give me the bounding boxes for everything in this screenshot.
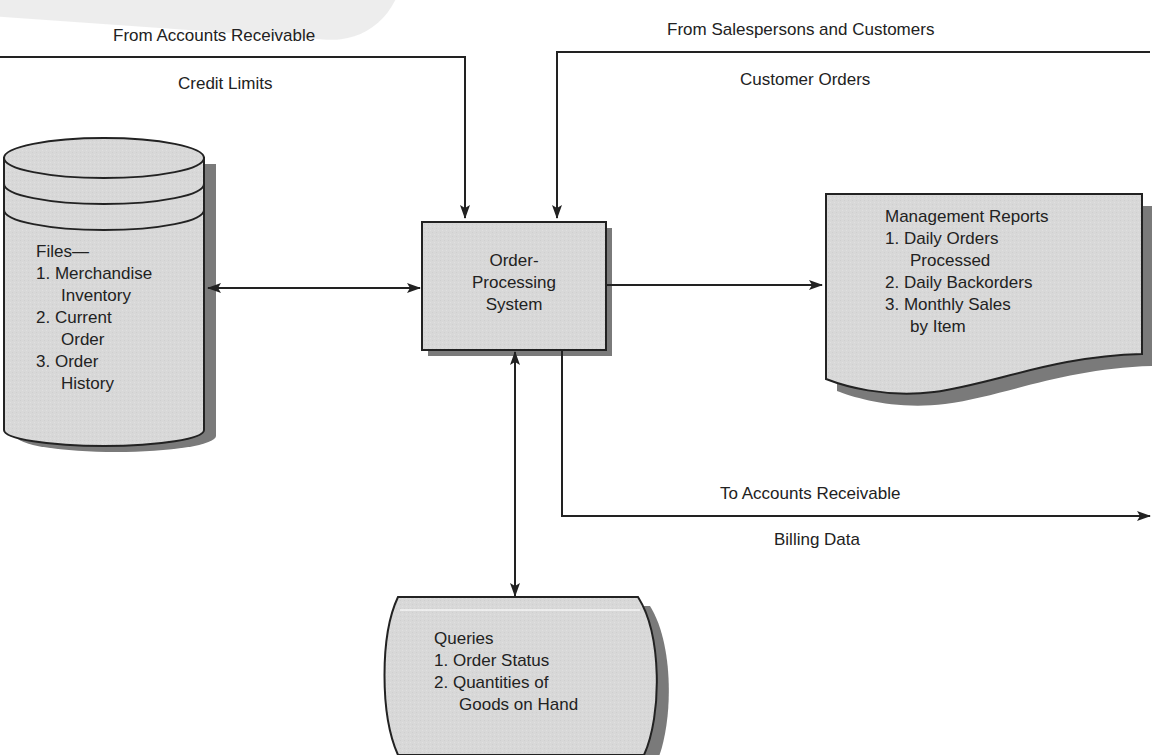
title-line-1: Order- — [422, 250, 606, 272]
item-number: 3. — [885, 295, 899, 314]
dest-accounts-receivable-label: To Accounts Receivable — [720, 484, 901, 504]
order-processing-title: Order- Processing System — [422, 250, 606, 316]
queries-item-2: 2. Quantities of — [434, 672, 578, 694]
item-number: 2. — [36, 308, 50, 327]
item-number: 1. — [434, 651, 448, 670]
item-number: 1. — [885, 229, 899, 248]
files-item-2-cont: Order — [36, 329, 152, 351]
queries-text: Queries 1. Order Status 2. Quantities of… — [434, 628, 578, 716]
files-item-2: 2. Current — [36, 307, 152, 329]
item-text: Merchandise — [55, 264, 152, 283]
queries-item-1: 1. Order Status — [434, 650, 578, 672]
item-text: Quantities of — [453, 673, 548, 692]
reports-item-1-cont: Processed — [885, 250, 1048, 272]
title-line-2: Processing — [422, 272, 606, 294]
files-text: Files— 1. Merchandise Inventory 2. Curre… — [36, 241, 152, 395]
item-text: Daily Backorders — [904, 273, 1033, 292]
reports-item-3: 3. Monthly Sales — [885, 294, 1048, 316]
reports-text: Management Reports 1. Daily Orders Proce… — [885, 206, 1048, 338]
files-item-3: 3. Order — [36, 351, 152, 373]
title-line-3: System — [422, 294, 606, 316]
item-text: Daily Orders — [904, 229, 998, 248]
item-text: Order Status — [453, 651, 549, 670]
files-heading: Files— — [36, 241, 152, 263]
item-text: Monthly Sales — [904, 295, 1011, 314]
item-text: Order — [55, 352, 98, 371]
queries-item-2-cont: Goods on Hand — [434, 694, 578, 716]
reports-item-2: 2. Daily Backorders — [885, 272, 1048, 294]
reports-item-3-cont: by Item — [885, 316, 1048, 338]
queries-heading: Queries — [434, 628, 578, 650]
files-item-3-cont: History — [36, 373, 152, 395]
files-item-1-cont: Inventory — [36, 285, 152, 307]
source-salespersons-label: From Salespersons and Customers — [667, 20, 934, 40]
item-number: 3. — [36, 352, 50, 371]
customer-orders-label: Customer Orders — [740, 70, 870, 90]
reports-heading: Management Reports — [885, 206, 1048, 228]
files-item-1: 1. Merchandise — [36, 263, 152, 285]
item-number: 1. — [36, 264, 50, 283]
reports-item-1: 1. Daily Orders — [885, 228, 1048, 250]
item-number: 2. — [885, 273, 899, 292]
credit-limits-label: Credit Limits — [178, 74, 272, 94]
billing-data-label: Billing Data — [774, 530, 860, 550]
item-number: 2. — [434, 673, 448, 692]
source-accounts-receivable-label: From Accounts Receivable — [113, 26, 315, 46]
item-text: Current — [55, 308, 112, 327]
